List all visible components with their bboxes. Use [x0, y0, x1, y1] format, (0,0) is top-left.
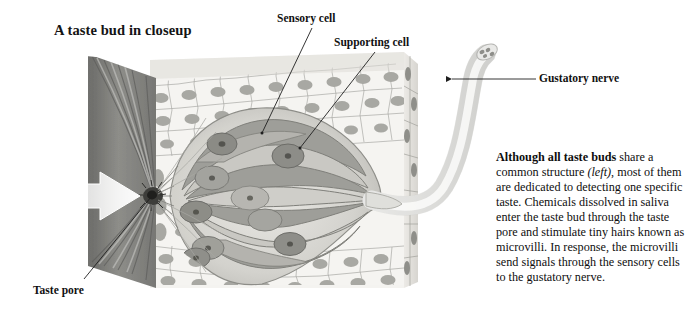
- caption-lead: Although all taste buds: [496, 150, 616, 164]
- callout-sensory-cell: Sensory cell: [277, 12, 335, 24]
- caption-part-2: , most of them are dedicated to detectin…: [496, 165, 684, 284]
- callout-taste-pore: Taste pore: [33, 284, 84, 296]
- papilla-cut-face: [88, 54, 156, 288]
- taste-bud-figure: A taste bud in closeup Sensory cell Supp…: [0, 0, 694, 324]
- page-title: A taste bud in closeup: [54, 22, 192, 39]
- caption-paragraph: Although all taste buds share a common s…: [496, 150, 686, 285]
- block-right-face: [404, 52, 418, 288]
- callout-gustatory-nerve: Gustatory nerve: [539, 72, 619, 84]
- callout-supporting-cell: Supporting cell: [334, 36, 409, 48]
- caption-italic: (left): [587, 165, 611, 179]
